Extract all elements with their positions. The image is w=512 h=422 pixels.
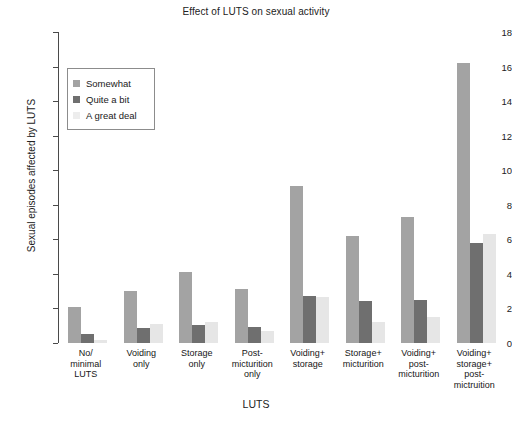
chart-figure: Effect of LUTS on sexual activity 024681… — [0, 0, 512, 422]
x-tick-label: No/ minimal LUTS — [58, 348, 114, 380]
bar — [483, 234, 496, 343]
x-tick-label: Post- micturition only — [225, 348, 281, 380]
x-tick-label: Storage only — [169, 348, 225, 369]
bar — [235, 289, 248, 343]
legend-label: A great deal — [86, 110, 137, 121]
y-tick-mark — [53, 343, 58, 344]
x-axis-title: LUTS — [0, 398, 512, 410]
x-tick-label: Voiding+ storage+ post- mictruition — [447, 348, 503, 390]
bar — [261, 331, 274, 343]
bar — [150, 324, 163, 343]
bar-group — [457, 32, 496, 343]
bar-group — [290, 32, 329, 343]
legend-item: Quite a bit — [73, 91, 148, 107]
bar — [427, 317, 440, 343]
bar — [137, 328, 150, 343]
legend-swatch-icon — [73, 80, 80, 87]
bar — [179, 272, 192, 343]
legend-swatch-icon — [73, 112, 80, 119]
bar-group — [179, 32, 218, 343]
bar — [205, 322, 218, 343]
bar — [470, 243, 483, 343]
bar — [68, 307, 81, 343]
bar — [346, 236, 359, 343]
bar-group — [346, 32, 385, 343]
legend-item: A great deal — [73, 107, 148, 123]
x-tick-label: Voiding+ storage — [280, 348, 336, 369]
bar — [124, 291, 137, 343]
x-tick-label: Voiding only — [114, 348, 170, 369]
bar — [192, 325, 205, 343]
x-tick-label: Voiding+ post- micturition — [391, 348, 447, 380]
bar — [414, 300, 427, 343]
bar — [94, 340, 107, 343]
bar — [81, 334, 94, 344]
legend-item: Somewhat — [73, 75, 148, 91]
bar — [290, 186, 303, 343]
bar — [303, 296, 316, 343]
bar — [359, 301, 372, 343]
y-axis-title: Sexual episodes affected by LUTS — [26, 41, 37, 311]
legend-label: Quite a bit — [86, 94, 129, 105]
chart-legend: SomewhatQuite a bitA great deal — [67, 68, 155, 130]
bar-group — [401, 32, 440, 343]
bar — [457, 63, 470, 343]
bar — [248, 327, 261, 343]
x-tick-label: Storage+ micturition — [336, 348, 392, 369]
bar — [316, 297, 329, 343]
legend-label: Somewhat — [86, 78, 131, 89]
legend-swatch-icon — [73, 96, 80, 103]
bar-group — [235, 32, 274, 343]
bar — [372, 322, 385, 343]
chart-title: Effect of LUTS on sexual activity — [0, 6, 512, 17]
bar — [401, 217, 414, 343]
